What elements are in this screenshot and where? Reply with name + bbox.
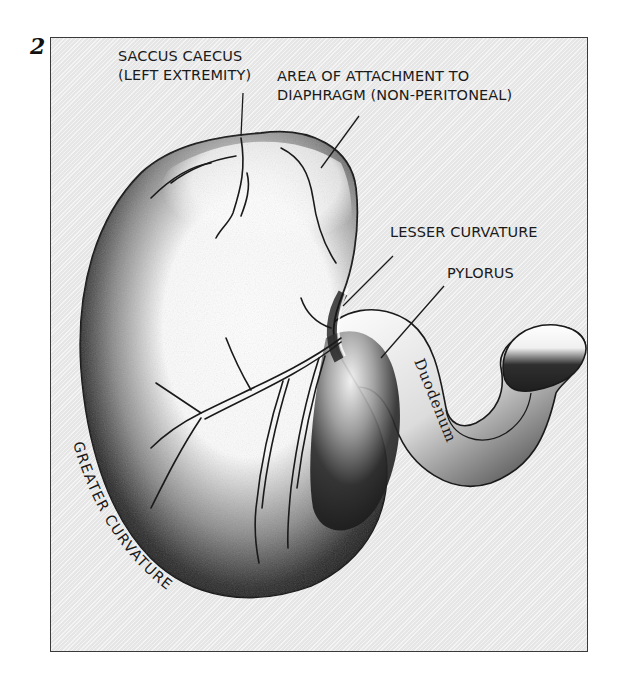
label-area-of-attachment: AREA OF ATTACHMENT TO DIAPHRAGM (NON-PER… [277, 67, 512, 105]
leader-saccus-caecus [241, 93, 243, 136]
illustration-frame: Duodenum GREATER CURVATURE SACCUS CAECUS… [50, 37, 588, 652]
figure-number: 2 [30, 33, 45, 59]
label-pylorus: PYLORUS [447, 264, 514, 283]
stomach-body [80, 132, 400, 598]
label-lesser-curvature: LESSER CURVATURE [390, 223, 538, 242]
stomach-illustration: Duodenum GREATER CURVATURE [51, 38, 588, 652]
label-saccus-caecus: SACCUS CAECUS (LEFT EXTREMITY) [118, 47, 251, 85]
